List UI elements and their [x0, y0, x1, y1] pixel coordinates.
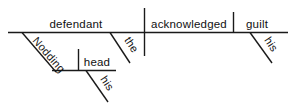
verb-label: acknowledged	[151, 18, 227, 30]
article-label: the	[122, 35, 141, 55]
article-label-group: the	[122, 35, 141, 55]
object-possessive-label: his	[262, 35, 280, 54]
participle-possessive-label-group: his	[98, 74, 116, 93]
diagram-canvas: defendant acknowledged guilt the his Nod…	[0, 0, 294, 111]
participle-label: Nodding	[30, 34, 67, 74]
subject-label: defendant	[50, 18, 104, 30]
participle-possessive-label: his	[98, 74, 116, 93]
sentence-diagram: defendant acknowledged guilt the his Nod…	[0, 0, 294, 111]
object-possessive-label-group: his	[262, 35, 280, 54]
object-label: guilt	[246, 18, 269, 30]
participle-object-label: head	[84, 56, 110, 68]
participle-label-group: Nodding	[30, 34, 67, 74]
